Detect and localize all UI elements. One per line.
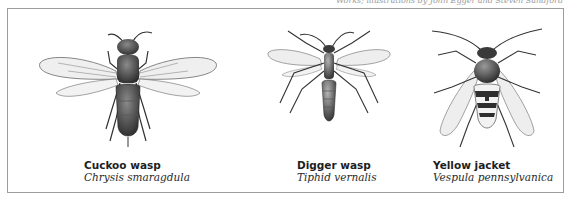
common-name: Yellow jacket <box>433 159 553 171</box>
illustration-credit: Works; illustrations by John Egger and S… <box>336 0 563 5</box>
digger-wasp-illustration <box>254 23 404 133</box>
scientific-name: Tiphid vernalis <box>297 171 377 183</box>
scientific-name: Vespula pennsylvanica <box>433 171 553 183</box>
common-name: Digger wasp <box>297 159 377 171</box>
cuckoo-wasp-caption: Cuckoo wasp Chrysis smaragdula <box>84 159 190 183</box>
scientific-name: Chrysis smaragdula <box>84 171 190 183</box>
common-name: Cuckoo wasp <box>84 159 190 171</box>
yellow-jacket-illustration <box>412 21 562 161</box>
illustration-panel: Cuckoo wasp Chrysis smaragdula Digger wa… <box>7 8 564 193</box>
digger-wasp-caption: Digger wasp Tiphid vernalis <box>297 159 377 183</box>
cuckoo-wasp-illustration <box>28 23 228 153</box>
yellow-jacket-caption: Yellow jacket Vespula pennsylvanica <box>433 159 553 183</box>
